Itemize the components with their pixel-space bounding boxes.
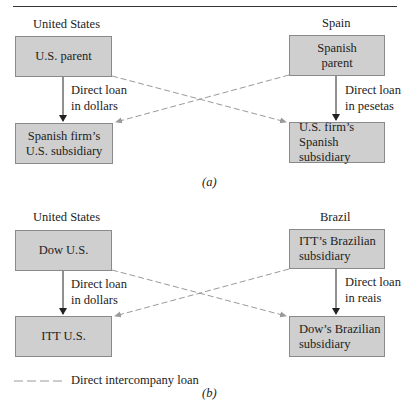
dashed-arrow-itts-brazilian-sub-to-itt-us [115, 269, 289, 316]
connector-lines [0, 0, 409, 404]
dashed-arrow-spanish-parent-to-spanish-firms-us-sub [116, 75, 289, 122]
